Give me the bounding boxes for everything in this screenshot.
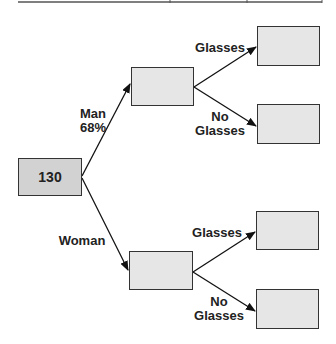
root-value: 130 [38, 169, 61, 185]
label-man-glasses: Glasses [190, 41, 250, 55]
label-man-no: No [190, 110, 250, 124]
node-man-no-glasses[interactable] [257, 104, 320, 144]
label-woman: Woman [52, 234, 112, 248]
node-man-glasses[interactable] [257, 26, 320, 66]
label-woman-glasses2: Glasses [189, 309, 249, 323]
label-woman-no-glasses: No Glasses [189, 295, 249, 323]
node-woman-no-glasses[interactable] [256, 289, 319, 329]
root-node: 130 [18, 158, 82, 196]
node-woman-glasses[interactable] [256, 211, 319, 250]
node-man[interactable] [131, 67, 194, 106]
node-woman[interactable] [129, 251, 193, 290]
table-fragment [18, 0, 322, 3]
label-man-text: Man [71, 107, 115, 121]
label-man-glasses2: Glasses [190, 124, 250, 138]
label-woman-no: No [189, 295, 249, 309]
label-man: Man 68% [71, 107, 115, 135]
label-woman-glasses: Glasses [187, 226, 247, 240]
arrow-woman [82, 178, 128, 270]
label-man-no-glasses: No Glasses [190, 110, 250, 138]
label-man-percent: 68% [71, 121, 115, 135]
